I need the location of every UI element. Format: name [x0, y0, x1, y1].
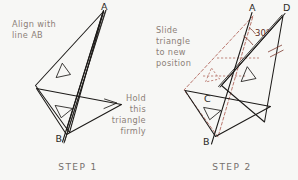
hold-instruction-line4: firmly: [120, 126, 146, 136]
aligned-edge-step1: [67, 11, 104, 130]
point-d-label-step2: D: [283, 2, 290, 13]
point-b-label-step2: B: [203, 136, 210, 147]
align-instruction-line2: line AB: [12, 30, 43, 40]
line-ab-extension-step1: [64, 11, 106, 144]
held-triangle-cutout-step1: [56, 106, 73, 118]
line-cd-step2: [220, 14, 285, 88]
slide-instruction-line1: Slide: [156, 25, 178, 35]
shaded-triangle-cutout-step1: [57, 64, 71, 78]
shaded-triangle-step2: [222, 16, 284, 122]
angle-30-label: 30°: [255, 28, 270, 38]
point-a-label-step2: A: [249, 2, 256, 13]
point-c-label-step2: C: [204, 93, 211, 104]
hold-pointer-arrow: [104, 99, 117, 109]
step2-caption: STEP 2: [212, 162, 251, 172]
line-ab-step2: [212, 13, 253, 145]
point-b-label-step1: B: [56, 133, 63, 144]
slide-instruction-line4: position: [156, 58, 191, 68]
hold-instruction-line1: Hold: [126, 93, 146, 103]
diagram-page: A B Align with line AB Hold this triangl…: [0, 0, 298, 180]
ghost-triangle-cutout-step2: [206, 68, 220, 82]
shaded-triangle-step1: [36, 12, 104, 133]
step2-panel: A D C B 30° Slide triangle to new positi…: [156, 2, 290, 172]
slide-instruction-line3: to new: [156, 47, 186, 57]
shaded-triangle-cutout-step2: [242, 67, 257, 82]
hold-instruction-line3: triangle: [112, 115, 146, 125]
held-triangle-step2: [185, 91, 271, 137]
point-a-label-step1: A: [101, 1, 108, 12]
step1-panel: A B Align with line AB Hold this triangl…: [12, 1, 146, 172]
instructional-diagram: A B Align with line AB Hold this triangl…: [0, 0, 298, 180]
align-instruction-line1: Align with: [12, 19, 56, 29]
held-triangle-cutout-step2: [204, 108, 221, 120]
ghost-triangle-step2: [184, 16, 253, 137]
hold-instruction-line2: this: [130, 104, 146, 114]
step1-caption: STEP 1: [58, 162, 97, 172]
slide-instruction-line2: triangle: [156, 36, 190, 46]
